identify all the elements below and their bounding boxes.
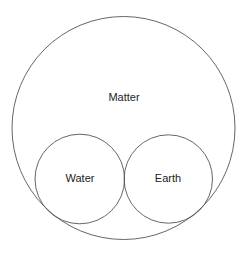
matter-label: Matter	[108, 91, 140, 103]
earth-label: Earth	[155, 172, 181, 184]
water-label: Water	[66, 172, 95, 184]
matter-circle	[12, 17, 235, 240]
venn-diagram: Matter Water Earth	[0, 0, 247, 254]
